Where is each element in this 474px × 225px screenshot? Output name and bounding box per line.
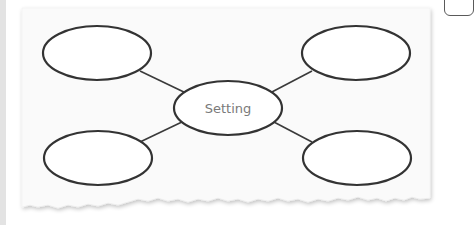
center-node-label: Setting — [205, 101, 252, 116]
node-bottom-left — [44, 131, 152, 185]
node-top-left — [43, 26, 151, 80]
node-top-right — [302, 26, 410, 80]
node-bottom-right — [303, 131, 411, 185]
